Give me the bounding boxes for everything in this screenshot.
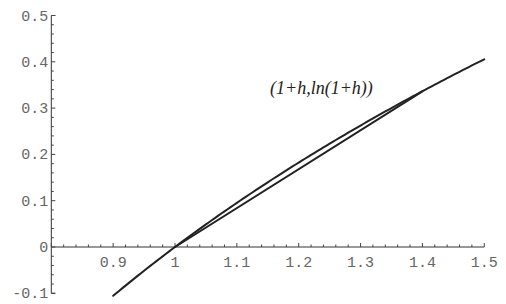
tick-labels: 0.911.11.21.31.41.5-0.100.10.20.30.40.5 bbox=[12, 9, 497, 304]
y-tick-label: 0 bbox=[39, 240, 48, 257]
chart: 0.911.11.21.31.41.5-0.100.10.20.30.40.5 … bbox=[0, 0, 506, 304]
y-tick-label: 0.1 bbox=[21, 194, 48, 211]
ticks bbox=[51, 16, 484, 294]
x-tick-label: 1.1 bbox=[223, 255, 250, 272]
y-tick-label: -0.1 bbox=[12, 286, 48, 303]
y-tick-label: 0.2 bbox=[21, 147, 48, 164]
x-tick-label: 1.3 bbox=[347, 255, 374, 272]
secant-line bbox=[175, 91, 422, 247]
annotations: (1+h,ln(1+h)) bbox=[270, 78, 373, 99]
x-tick-label: 1.4 bbox=[409, 255, 436, 272]
y-tick-label: 0.5 bbox=[21, 9, 48, 26]
x-tick-label: 1.2 bbox=[285, 255, 312, 272]
axes bbox=[51, 16, 484, 294]
x-tick-label: 1.5 bbox=[471, 255, 498, 272]
x-tick-label: 1 bbox=[170, 255, 179, 272]
y-tick-label: 0.4 bbox=[21, 55, 48, 72]
y-tick-label: 0.3 bbox=[21, 101, 48, 118]
x-tick-label: 0.9 bbox=[100, 255, 127, 272]
point-label: (1+h,ln(1+h)) bbox=[270, 78, 373, 99]
